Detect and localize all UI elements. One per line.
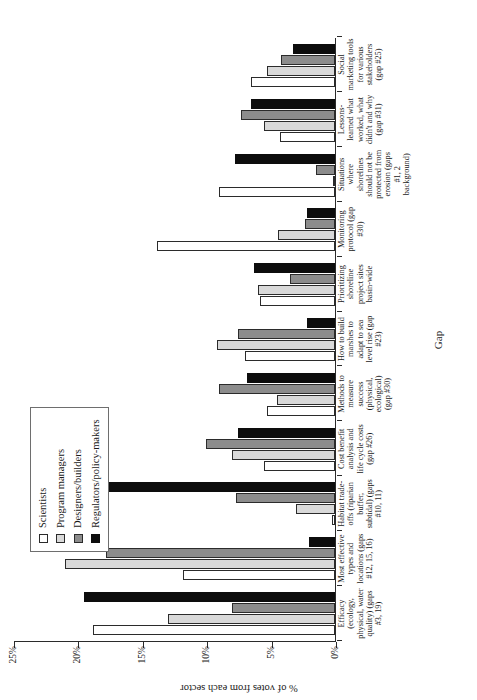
y-axis-title: % of votes from each sector: [180, 683, 298, 694]
bar: [238, 329, 335, 339]
bar: [260, 296, 335, 306]
category-tick-mark: [337, 420, 342, 421]
bar: [238, 428, 335, 438]
y-tick-label: 5%: [267, 646, 277, 659]
category-label: Social marketing tools for various stake…: [337, 37, 411, 92]
category-label: Monitoring protocol (gap #30): [337, 202, 411, 257]
category-tick-mark: [337, 146, 342, 147]
bar: [232, 450, 335, 460]
bar: [251, 77, 335, 87]
category-tick-mark: [337, 256, 342, 257]
bar-group: [14, 38, 335, 93]
bar-group: [14, 312, 335, 367]
bar: [296, 504, 335, 514]
bar: [241, 110, 335, 120]
bar: [206, 439, 335, 449]
category-label: Methods to measure success (physical, ec…: [337, 366, 411, 421]
category-tick-mark: [337, 365, 342, 366]
category-tick-mark: [337, 475, 342, 476]
y-tick-label: 0%: [331, 646, 341, 659]
bar: [280, 132, 335, 142]
legend-item-scientists: Scientists: [38, 420, 49, 543]
bar: [332, 515, 335, 525]
category-label: How to build marshes to adapt to sea lev…: [337, 312, 411, 367]
legend-label-designers-builders: Designers/builders: [73, 449, 84, 528]
category-label: Habitat trade-offs (riparian buffer, sub…: [337, 476, 411, 531]
bar: [247, 373, 335, 383]
value-axis-baseline: [335, 38, 336, 642]
x-axis-title: Gap: [432, 38, 444, 642]
bar: [219, 384, 335, 394]
bar: [277, 395, 335, 405]
category-tick-mark: [337, 311, 342, 312]
bar: [281, 55, 335, 65]
bar: [65, 559, 335, 569]
legend-item-program-managers: Program managers: [56, 420, 67, 543]
value-axis-line: [14, 641, 336, 642]
legend-item-regulators-policy-makers: Regulators/policy-makers: [91, 420, 102, 543]
bar: [245, 351, 335, 361]
legend-item-designers-builders: Designers/builders: [73, 420, 84, 543]
legend-label-program-managers: Program managers: [56, 449, 67, 528]
bar: [71, 482, 335, 492]
y-tick-label: 20%: [74, 646, 84, 663]
category-tick-mark: [337, 585, 342, 586]
bar: [267, 66, 335, 76]
bar-group: [14, 586, 335, 641]
bar: [305, 219, 335, 229]
bar: [333, 176, 335, 186]
bar-chart: % of votes from each sector 0%5%10%15%20…: [0, 0, 477, 700]
bar: [307, 208, 335, 218]
bar: [157, 241, 335, 251]
legend-swatch-icon-designers-builders: [74, 534, 83, 543]
legend-swatch-icon-scientists: [39, 534, 48, 543]
bar-group: [14, 148, 335, 203]
y-tick-label: 15%: [138, 646, 148, 663]
bar: [254, 263, 335, 273]
category-tick-mark: [337, 640, 342, 641]
category-label: Situations where shorelines should not b…: [337, 147, 411, 202]
category-tick-mark: [337, 201, 342, 202]
legend-label-scientists: Scientists: [38, 488, 49, 528]
bar: [232, 603, 335, 613]
bar: [293, 44, 336, 54]
legend-label-regulators-policy-makers: Regulators/policy-makers: [91, 420, 102, 528]
category-label: Cost benefit analysis and life cycle cos…: [337, 421, 411, 476]
bar: [236, 493, 335, 503]
category-tick-mark: [337, 91, 342, 92]
bar: [106, 548, 335, 558]
category-tick-mark: [337, 530, 342, 531]
category-axis-labels: Efficacy (ecology, physical, water quali…: [337, 37, 411, 641]
bar: [219, 187, 335, 197]
bar-group: [14, 93, 335, 148]
y-tick-label: 25%: [9, 646, 19, 663]
bar: [316, 165, 335, 175]
bar-group: [14, 203, 335, 258]
bar: [267, 406, 335, 416]
category-label: Prioritizing shoreline project sites bas…: [337, 257, 411, 312]
bar: [264, 461, 335, 471]
category-tick-mark: [337, 36, 342, 37]
bar: [309, 537, 335, 547]
rotated-figure-stage: % of votes from each sector 0%5%10%15%20…: [0, 0, 477, 700]
bar: [307, 318, 335, 328]
bar: [258, 285, 335, 295]
bar: [183, 570, 335, 580]
legend: Scientists Program managers Designers/bu…: [30, 407, 109, 552]
bar: [217, 340, 335, 350]
bar: [235, 154, 335, 164]
category-label: Efficacy (ecology, physical, water quali…: [337, 586, 411, 641]
bar: [251, 99, 335, 109]
legend-swatch-icon-regulators-policy-makers: [91, 534, 100, 543]
category-label: Lessons-learned what worked, what didn't…: [337, 92, 411, 147]
bar: [168, 614, 335, 624]
legend-swatch-icon-program-managers: [56, 534, 65, 543]
bar: [93, 625, 335, 635]
bar: [290, 274, 335, 284]
bar-group: [14, 257, 335, 312]
y-tick-label: 10%: [202, 646, 212, 663]
bar: [84, 592, 335, 602]
bar: [278, 230, 335, 240]
bar: [264, 121, 335, 131]
category-label: Most effective types and locations (gaps…: [337, 531, 411, 586]
